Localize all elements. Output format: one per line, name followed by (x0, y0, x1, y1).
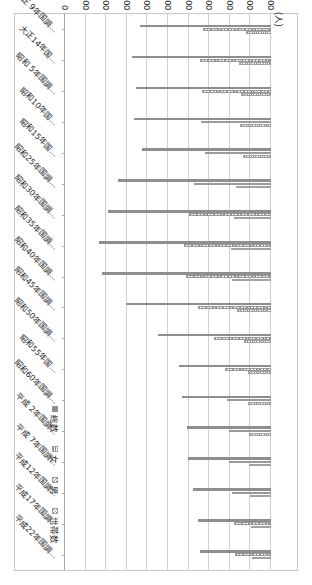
legend-swatch (52, 406, 58, 412)
legend-swatch (52, 477, 58, 483)
chart-legend: 総数女男世帯数 (49, 406, 61, 544)
bar-男 (205, 152, 271, 155)
chart-screenshot: (人) 02,0004,0006,0008,00010,00012,00014,… (0, 0, 312, 585)
category-tick (61, 138, 65, 169)
bar-group (65, 76, 271, 107)
category-tick (61, 199, 65, 230)
bar-group (65, 14, 271, 45)
legend-label: 世帯数 (49, 517, 61, 544)
bar-男 (225, 368, 271, 371)
axis-tick-label: 0 (61, 5, 70, 14)
axis-tick-label: 8,000 (143, 0, 152, 14)
bar-総数 (198, 519, 271, 522)
bar-男 (200, 59, 271, 62)
category-tick (61, 168, 65, 199)
category-tick (61, 446, 65, 477)
category-tick (61, 508, 65, 539)
legend-item[interactable]: 男 (49, 477, 61, 495)
bar-男 (194, 183, 271, 186)
bar-総数 (108, 210, 271, 213)
plot-area: 02,0004,0006,0008,00010,00012,00014,0001… (65, 14, 271, 570)
bar-男 (229, 461, 271, 464)
bar-女 (237, 186, 272, 189)
bar-女 (248, 371, 271, 374)
bar-group (65, 168, 271, 199)
bar-男 (189, 213, 271, 216)
category-tick (61, 45, 65, 76)
category-tick (61, 76, 65, 107)
axis-tick-label: 18,000 (246, 0, 255, 14)
category-tick (61, 261, 65, 292)
category-tick (61, 416, 65, 447)
bar-女 (248, 402, 271, 405)
bar-総数 (179, 365, 271, 368)
bar-group (65, 107, 271, 138)
legend-label: 女 (49, 455, 61, 464)
axis-tick-label: 4,000 (102, 0, 111, 14)
bar-group (65, 292, 271, 323)
axis-tick-label: 20,000 (267, 0, 276, 14)
bar-総数 (118, 179, 271, 182)
legend-label: 男 (49, 486, 61, 495)
bar-group (65, 199, 271, 230)
bar-総数 (142, 148, 271, 151)
category-tick-marks (61, 14, 65, 570)
bar-女 (249, 433, 271, 436)
bar-女 (231, 248, 271, 251)
legend-item[interactable]: 世帯数 (49, 508, 61, 544)
bar-男 (202, 90, 271, 93)
bar-group (65, 385, 271, 416)
bar-女 (234, 217, 271, 220)
bar-総数 (182, 396, 271, 399)
category-tick (61, 385, 65, 416)
category-tick (61, 292, 65, 323)
legend-swatch (52, 508, 58, 514)
bar-女 (241, 93, 271, 96)
bar-総数 (188, 457, 271, 460)
bar-男 (234, 522, 271, 525)
legend-item[interactable]: 総数 (49, 406, 61, 433)
bar-女 (252, 557, 271, 560)
chart-frame: (人) 02,0004,0006,0008,00010,00012,00014,… (14, 13, 298, 571)
bar-総数 (140, 25, 271, 28)
bar-女 (251, 526, 271, 529)
bar-男 (203, 28, 271, 31)
bar-女 (246, 31, 271, 34)
bar-男 (198, 306, 271, 309)
bar-男 (227, 399, 271, 402)
bar-group (65, 45, 271, 76)
category-tick (61, 354, 65, 385)
bar-女 (237, 309, 271, 312)
bar-男 (232, 492, 271, 495)
bar-男 (184, 244, 271, 247)
bar-group (65, 261, 271, 292)
bar-groups (65, 14, 271, 570)
bar-女 (249, 464, 271, 467)
category-tick (61, 477, 65, 508)
bar-男 (235, 553, 271, 556)
bar-女 (239, 62, 271, 65)
bar-女 (250, 495, 271, 498)
legend-item[interactable]: 女 (49, 446, 61, 464)
bar-総数 (134, 118, 271, 121)
axis-tick-label: 10,000 (164, 0, 173, 14)
axis-tick-label: 12,000 (184, 0, 193, 14)
bar-女 (243, 155, 271, 158)
bar-group (65, 354, 271, 385)
chart-stage: (人) 02,0004,0006,0008,00010,00012,00014,… (15, 14, 297, 570)
bar-総数 (200, 550, 271, 553)
bar-女 (244, 340, 271, 343)
axis-tick-label: 14,000 (205, 0, 214, 14)
bar-女 (240, 124, 271, 127)
axis-unit-label: (人) (275, 12, 284, 27)
category-tick (61, 107, 65, 138)
bar-総数 (102, 272, 271, 275)
axis-tick-label: 6,000 (123, 0, 132, 14)
bar-group (65, 446, 271, 477)
bar-group (65, 323, 271, 354)
legend-label: 総数 (49, 415, 61, 433)
bar-男 (201, 121, 271, 124)
bar-総数 (193, 488, 271, 491)
axis-tick-label: 16,000 (226, 0, 235, 14)
bar-総数 (187, 426, 271, 429)
